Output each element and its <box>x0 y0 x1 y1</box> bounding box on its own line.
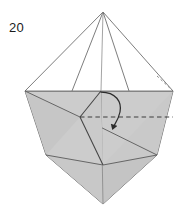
upper-cone-group <box>25 12 173 91</box>
origami-illustration <box>0 0 189 213</box>
origami-step-figure: 20 <box>0 0 189 213</box>
paper-face-upper-cone <box>25 12 173 91</box>
step-number-label: 20 <box>9 21 24 34</box>
